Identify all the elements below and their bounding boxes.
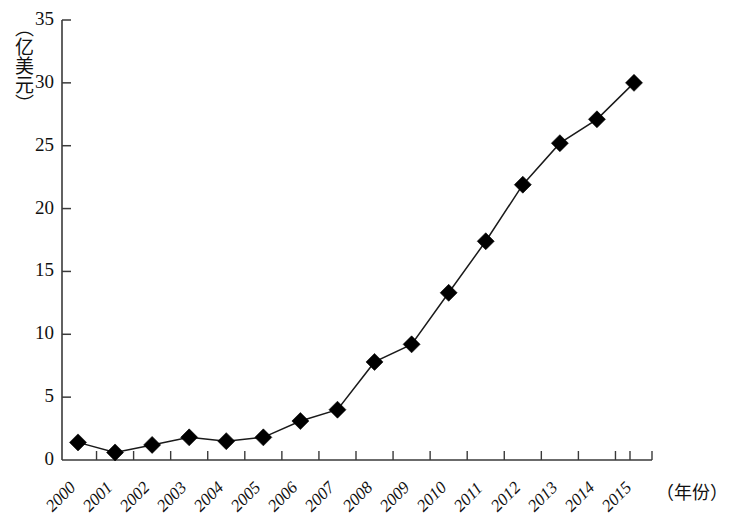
- data-series-markers: [70, 74, 643, 461]
- series-polyline: [78, 83, 634, 453]
- axis-lines: [62, 20, 652, 460]
- data-point-marker: [440, 284, 457, 301]
- data-point-marker: [366, 353, 383, 370]
- data-point-marker: [477, 233, 494, 250]
- y-axis-ticks: [62, 20, 71, 397]
- data-series-line: [78, 83, 634, 453]
- data-point-marker: [292, 413, 309, 430]
- chart-plot-area: [0, 0, 729, 527]
- data-point-marker: [329, 401, 346, 418]
- data-point-marker: [144, 436, 161, 453]
- line-chart: （亿美元） （年份） 05101520253035 20002001200220…: [0, 0, 729, 527]
- data-point-marker: [255, 429, 272, 446]
- data-point-marker: [403, 336, 420, 353]
- data-point-marker: [181, 429, 198, 446]
- data-point-marker: [107, 444, 124, 461]
- x-axis-ticks: [97, 451, 652, 460]
- data-point-marker: [218, 433, 235, 450]
- data-point-marker: [70, 434, 87, 451]
